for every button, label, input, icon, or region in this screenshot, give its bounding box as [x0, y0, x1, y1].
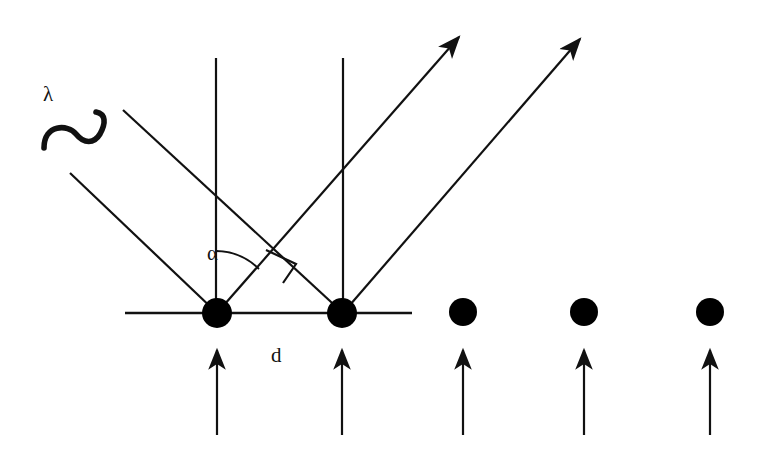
scattered-ray-1 — [217, 37, 459, 313]
incident-ray-2 — [70, 173, 217, 313]
incident-ray-1 — [123, 110, 343, 313]
alpha-angle-arc — [216, 251, 259, 269]
atom — [570, 298, 598, 326]
atom — [202, 298, 232, 328]
lambda-symbol: λ — [43, 84, 53, 105]
atom — [696, 298, 724, 326]
lattice-spacing-label: d — [271, 345, 282, 366]
atom — [449, 298, 477, 326]
diffraction-diagram: λ α d — [0, 0, 766, 458]
atom — [327, 298, 357, 328]
wave-squiggle-icon — [44, 112, 104, 148]
alpha-symbol: α — [207, 243, 218, 264]
scattered-ray-2 — [343, 39, 580, 313]
diagram-canvas — [0, 0, 766, 458]
